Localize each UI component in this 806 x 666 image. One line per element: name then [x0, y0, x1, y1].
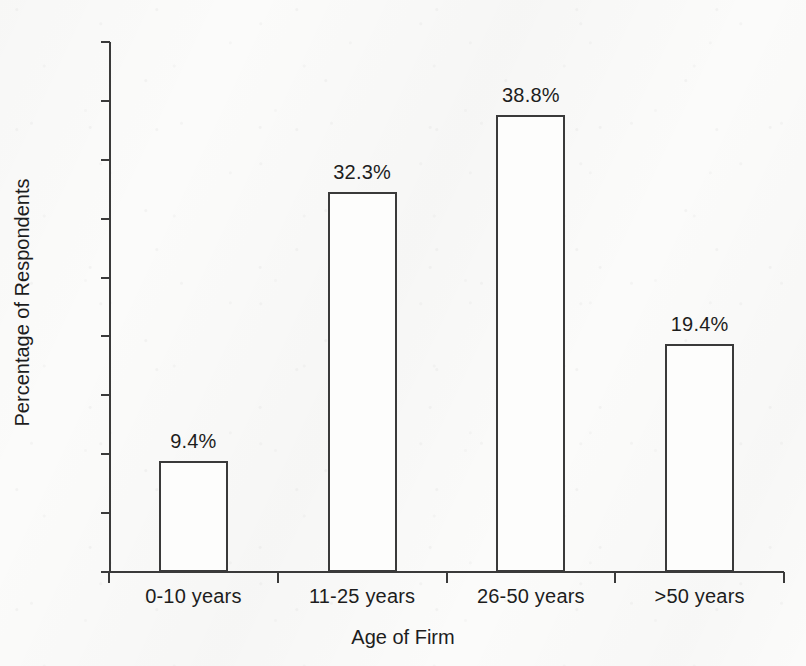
bar-value-label: 38.8%	[502, 84, 560, 107]
x-axis-tick	[783, 572, 785, 583]
bar-value-label: 32.3%	[333, 161, 391, 184]
bar-value-label: 19.4%	[671, 313, 729, 336]
bar	[159, 461, 228, 572]
y-axis-tick	[101, 100, 110, 102]
y-axis-tick	[101, 335, 110, 337]
bar	[496, 115, 565, 572]
x-axis-tick	[108, 572, 110, 583]
y-axis-tick	[101, 394, 110, 396]
y-axis-tick	[101, 41, 110, 43]
y-axis-tick	[101, 159, 110, 161]
y-axis-tick	[101, 218, 110, 220]
y-axis-tick	[101, 453, 110, 455]
chart-page: 0%5%10%15%20%25%30%35%40%45% 9.4%0-10 ye…	[0, 0, 806, 666]
x-axis-title: Age of Firm	[0, 626, 806, 649]
y-axis-title: Percentage of Respondents	[11, 68, 34, 538]
bar	[665, 344, 734, 572]
bar-chart: 0%5%10%15%20%25%30%35%40%45% 9.4%0-10 ye…	[0, 0, 806, 666]
x-axis-tick	[446, 572, 448, 583]
x-axis-category-label: 11-25 years	[309, 585, 415, 608]
y-axis-tick	[101, 512, 110, 514]
x-axis-category-label: 26-50 years	[477, 585, 585, 608]
y-axis-tick	[101, 277, 110, 279]
y-axis-line	[109, 42, 111, 573]
bar	[328, 192, 397, 572]
x-axis-tick	[614, 572, 616, 583]
bar-value-label: 9.4%	[170, 430, 216, 453]
x-axis-category-label: >50 years	[655, 585, 745, 608]
x-axis-category-label: 0-10 years	[145, 585, 242, 608]
x-axis-tick	[277, 572, 279, 583]
